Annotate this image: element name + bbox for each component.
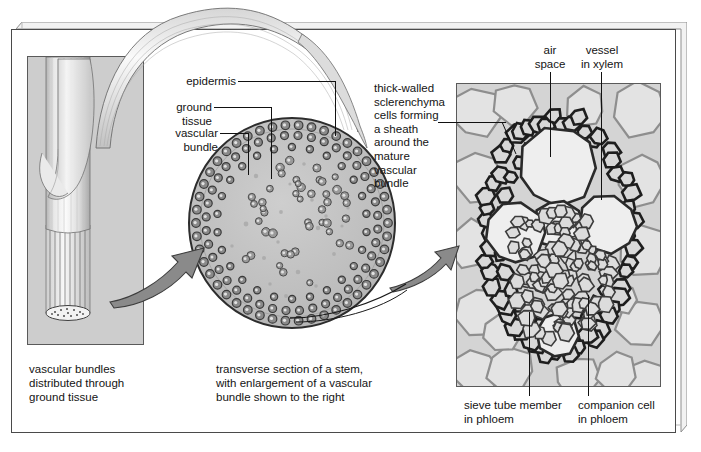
leader-vascular-bundle-v [248, 133, 249, 175]
panel-vascular-bundle-micrograph [456, 83, 661, 387]
label-companion-cell: companion cell in phloem [578, 399, 674, 426]
leader-epidermis-v [335, 81, 336, 136]
label-vascular-bundle: vascular bundle [150, 127, 218, 154]
leader-vascular-bundle-h [220, 133, 249, 134]
label-epidermis: epidermis [156, 75, 236, 89]
leader-sclerenchyma-fork [500, 122, 524, 156]
arrow-stem-to-section [108, 236, 212, 310]
leader-ground-tissue-v [271, 107, 272, 179]
leader-vessel-xylem [601, 72, 602, 200]
label-sclerenchyma: thick-walled sclerenchyma cells forming … [374, 82, 460, 191]
leader-epidermis-h [238, 81, 336, 82]
leader-companion-cell [588, 295, 589, 396]
leader-air-space [550, 72, 551, 157]
label-air-space: air space [523, 44, 577, 71]
label-ground-tissue: ground tissue [156, 101, 212, 128]
caption-left-panel: vascular bundles distributed through gro… [29, 362, 159, 405]
caption-center-panel: transverse section of a stem, with enlar… [216, 362, 406, 405]
section-to-bundle-pointer [288, 280, 408, 326]
label-sieve-tube-member: sieve tube member in phloem [464, 399, 568, 426]
leader-sieve-tube [529, 312, 530, 396]
micrograph-cells [457, 84, 660, 386]
figure-root: epidermis ground tissue vascular bundle … [0, 0, 701, 452]
label-vessel-in-xylem: vessel in xylem [570, 44, 634, 71]
leader-ground-tissue-h [214, 107, 272, 108]
